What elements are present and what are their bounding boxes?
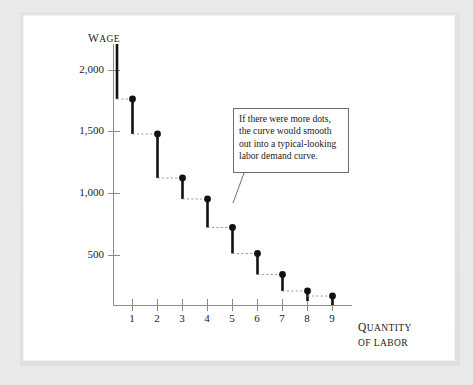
data-point-3 xyxy=(179,175,186,182)
x-tick-label-5: 5 xyxy=(224,312,240,324)
x-tick-label-8: 8 xyxy=(299,312,315,324)
annotation-leader-line xyxy=(233,173,244,203)
x-tick-label-9: 9 xyxy=(324,312,340,324)
data-point-4 xyxy=(204,196,211,203)
y-tick-label-2000: 2,000 xyxy=(62,63,104,75)
data-point-1 xyxy=(129,96,136,103)
y-tick-label-500: 500 xyxy=(62,248,104,260)
x-tick-label-3: 3 xyxy=(174,312,190,324)
data-point-8 xyxy=(304,288,311,295)
x-axis-title-line-2: OF LABOR xyxy=(358,336,412,351)
data-point-5 xyxy=(229,224,236,231)
data-point-2 xyxy=(154,131,161,138)
x-tick-label-2: 2 xyxy=(149,312,165,324)
x-tick-label-7: 7 xyxy=(274,312,290,324)
y-axis-title: WAGE xyxy=(88,32,120,44)
step-bars xyxy=(117,44,333,305)
data-point-9 xyxy=(329,293,336,300)
x-axis-title: QUANTITY OF LABOR xyxy=(358,320,412,351)
y-tick-label-1500: 1,500 xyxy=(62,124,104,136)
x-tick-label-6: 6 xyxy=(249,312,265,324)
y-tick-label-1000: 1,000 xyxy=(62,186,104,198)
annotation-text: If there were more dots, the curve would… xyxy=(239,113,343,163)
data-point-6 xyxy=(254,250,261,257)
x-tick-label-1: 1 xyxy=(124,312,140,324)
y-axis-title-first-letter: W xyxy=(88,32,99,44)
data-point-7 xyxy=(279,271,286,278)
x-axis-title-line-1: QUANTITY xyxy=(358,320,412,336)
x-tick-label-4: 4 xyxy=(199,312,215,324)
y-axis-title-rest: AGE xyxy=(99,34,120,44)
figure-container: 2,000 1,500 1,000 500 1 2 3 4 5 6 7 8 9 … xyxy=(0,0,473,385)
